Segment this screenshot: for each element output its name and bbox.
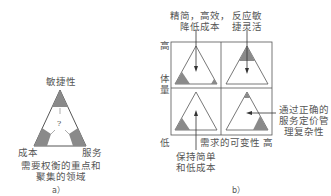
service-label: 服务: [82, 147, 102, 158]
triangle-bottom-right: [226, 92, 268, 130]
annotation-top-left-1: 精简，高效，: [170, 10, 226, 21]
panel-a-sublabel: a）: [52, 185, 65, 196]
question-mark: ?: [57, 118, 61, 129]
caption-line-2: 聚集的领域: [18, 171, 104, 182]
y-axis-low: 低: [160, 137, 170, 148]
annotation-right-1: 通过正确的: [276, 104, 331, 115]
y-axis-high: 高: [160, 40, 170, 51]
annotation-right-2: 服务定价管: [276, 115, 331, 126]
agility-label: 敏捷性: [46, 76, 76, 87]
annotation-bottom-1: 保持简单: [176, 151, 216, 162]
annotation-right-3: 理复杂性: [276, 126, 331, 137]
y-axis-label-2: 量: [160, 84, 170, 95]
arrows: [194, 30, 276, 150]
annotation-top-left-2: 降低成本: [172, 21, 228, 32]
annotation-top-right-2: 捷灵活: [232, 21, 262, 32]
x-axis-high: 高: [263, 137, 273, 148]
panel-b-sublabel: b）: [232, 185, 245, 196]
annotation-top-right-1: 反应敏: [232, 10, 262, 21]
x-axis-label: 需求的可变性: [200, 137, 260, 148]
y-axis-label-1: 体: [160, 73, 170, 84]
caption-line-1: 需要权衡的重点和: [18, 160, 104, 171]
annotation-bottom-2: 和低成本: [176, 162, 216, 173]
cost-label: 成本: [18, 147, 38, 158]
